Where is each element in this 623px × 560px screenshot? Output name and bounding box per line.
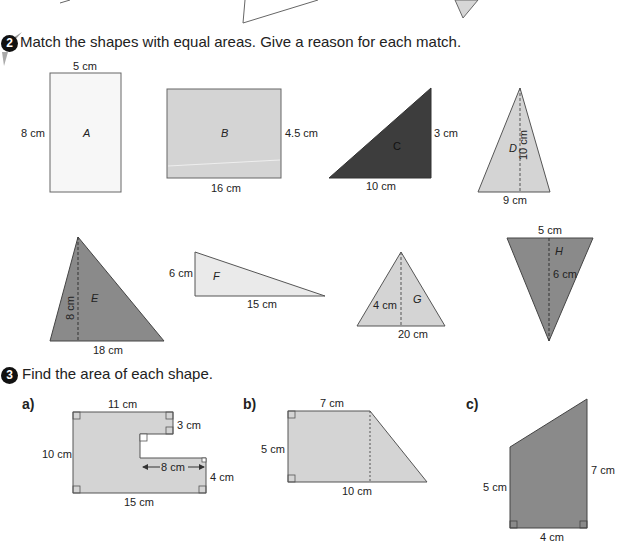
shape-a-width: 5 cm xyxy=(73,60,97,72)
shape-d-label: D xyxy=(509,142,517,154)
part-c-right: 7 cm xyxy=(591,464,615,476)
shape-c-base: 10 cm xyxy=(366,180,396,192)
shape-a-height: 8 cm xyxy=(21,127,45,139)
part-a-bottom: 15 cm xyxy=(124,496,154,508)
shape-g-label: G xyxy=(413,293,422,305)
question-3-instruction: Find the area of each shape. xyxy=(22,365,213,382)
shape-b-height: 4.5 cm xyxy=(285,127,318,139)
partial-shape-top-middle xyxy=(243,0,318,23)
part-b-top: 7 cm xyxy=(320,397,344,409)
part-c-label: c) xyxy=(466,396,478,412)
shape-f-height: 6 cm xyxy=(169,267,193,279)
question-3-number: 3 xyxy=(1,367,18,384)
shape-c-label: C xyxy=(393,140,401,152)
question-2-instruction: Match the shapes with equal areas. Give … xyxy=(20,33,461,50)
part-a-top: 11 cm xyxy=(108,398,137,410)
part-c-bottom: 4 cm xyxy=(540,531,564,543)
part-a-label: a) xyxy=(22,396,34,412)
shape-f-base: 15 cm xyxy=(247,298,277,310)
shape-3b xyxy=(288,411,427,482)
shape-b-width: 16 cm xyxy=(211,182,241,194)
question-2-number: 2 xyxy=(1,35,18,52)
shape-e-base: 18 cm xyxy=(93,344,123,356)
part-a-right-bottom: 4 cm xyxy=(210,471,234,483)
shape-3c xyxy=(510,399,587,528)
shape-d-base: 9 cm xyxy=(503,194,527,206)
shape-b-label: B xyxy=(221,127,228,139)
shape-c-height: 3 cm xyxy=(434,127,458,139)
shape-c xyxy=(329,88,431,178)
shape-h xyxy=(507,238,593,341)
worksheet-figures xyxy=(0,0,623,560)
part-c-left: 5 cm xyxy=(483,481,507,493)
shape-e-label: E xyxy=(91,292,98,304)
shape-g-base: 20 cm xyxy=(398,328,428,340)
shape-h-label: H xyxy=(555,245,563,257)
partial-shape-top-right xyxy=(455,0,478,18)
part-a-notch-top: 3 cm xyxy=(177,419,201,431)
shape-d-height: 10 cm xyxy=(517,130,529,160)
shape-a-label: A xyxy=(83,127,90,139)
partial-shape-top-left xyxy=(60,0,70,3)
shape-e-height: 8 cm xyxy=(64,296,76,320)
part-a-notch-depth: 8 cm xyxy=(161,461,185,473)
part-b-label: b) xyxy=(243,396,256,412)
q2-marker-tail xyxy=(2,52,8,66)
part-b-bottom: 10 cm xyxy=(342,485,372,497)
part-b-left: 5 cm xyxy=(261,443,285,455)
shape-e xyxy=(50,237,164,341)
shape-d xyxy=(478,88,550,192)
shape-f-label: F xyxy=(213,270,220,282)
shape-g-height: 4 cm xyxy=(373,299,397,311)
shape-h-base: 5 cm xyxy=(538,224,562,236)
part-a-left: 10 cm xyxy=(42,448,72,460)
shape-h-height: 6 cm xyxy=(553,268,577,280)
